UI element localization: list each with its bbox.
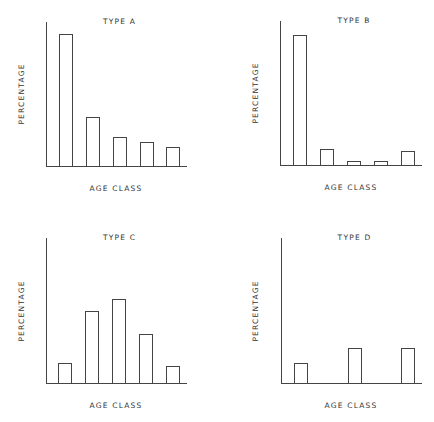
x-axis-label: AGE CLASS: [325, 183, 378, 192]
x-axis: [280, 165, 422, 166]
x-axis-label: AGE CLASS: [90, 184, 143, 193]
bar-age-class-5: [166, 147, 180, 166]
x-axis: [46, 383, 187, 384]
y-axis: [280, 21, 281, 165]
chart-title: TYPE A: [103, 17, 136, 26]
bar-age-class-5: [401, 151, 415, 165]
bar-age-class-1: [58, 363, 72, 383]
y-axis: [46, 238, 47, 383]
x-axis: [281, 383, 422, 384]
bar-age-class-3: [348, 348, 362, 383]
x-axis-label: AGE CLASS: [90, 401, 143, 410]
bar-age-class-5: [166, 366, 180, 383]
bar-age-class-1: [294, 363, 308, 383]
y-axis: [281, 238, 282, 383]
bar-age-class-2: [85, 311, 99, 384]
bar-age-class-2: [320, 149, 334, 165]
bar-age-class-4: [140, 142, 154, 166]
bar-age-class-1: [59, 34, 73, 166]
x-axis: [46, 166, 187, 167]
bar-age-class-4: [374, 161, 388, 165]
x-axis-label: AGE CLASS: [325, 401, 378, 410]
chart-title: TYPE C: [103, 233, 136, 242]
bar-age-class-5: [401, 348, 415, 383]
bar-age-class-2: [86, 117, 100, 166]
y-axis-label: PERCENTAGE: [251, 280, 260, 341]
bar-age-class-3: [112, 299, 126, 383]
bar-age-class-3: [113, 137, 127, 166]
bar-age-class-3: [347, 161, 361, 165]
y-axis: [46, 22, 47, 166]
y-axis-label: PERCENTAGE: [17, 280, 26, 341]
chart-title: TYPE D: [338, 233, 372, 242]
y-axis-label: PERCENTAGE: [251, 62, 260, 123]
bar-age-class-4: [139, 334, 153, 383]
y-axis-label: PERCENTAGE: [17, 63, 26, 124]
bar-age-class-1: [293, 35, 307, 165]
chart-title: TYPE B: [337, 16, 370, 25]
